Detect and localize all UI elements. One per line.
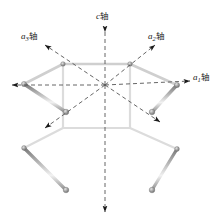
a3-axis-unit: 轴 bbox=[29, 31, 38, 41]
a1-axis-label: a1轴 bbox=[193, 73, 210, 83]
a1-axis-unit: 轴 bbox=[201, 72, 210, 82]
a2-axis-unit: 轴 bbox=[156, 31, 165, 41]
hexagonal-prism bbox=[21, 62, 179, 193]
prism-top-face bbox=[24, 84, 177, 112]
crystallographic-axes bbox=[12, 32, 190, 212]
a3-axis-label: a3轴 bbox=[21, 32, 38, 42]
a3-axis-line-lower bbox=[45, 85, 105, 128]
prism-bottom-face bbox=[24, 148, 177, 190]
hexagonal-axes-figure: c轴 a1轴 a2轴 a3轴 bbox=[0, 0, 222, 221]
c-axis-unit: 轴 bbox=[100, 11, 109, 21]
a2-axis-line-lower bbox=[105, 85, 160, 122]
a2-axis-label: a2轴 bbox=[148, 32, 165, 42]
c-axis-label: c轴 bbox=[96, 12, 109, 21]
